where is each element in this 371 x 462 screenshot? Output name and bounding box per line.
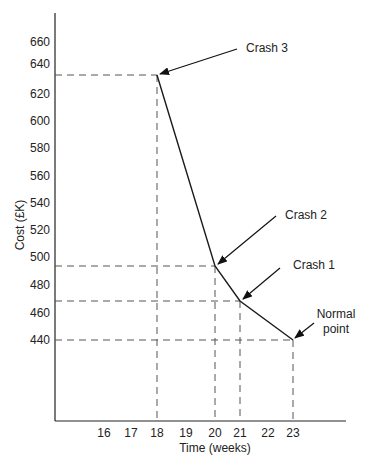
reference-dashes bbox=[55, 75, 293, 421]
arrow-normal-point bbox=[295, 323, 314, 338]
y-axis-label: Cost (£K) bbox=[13, 200, 27, 251]
y-tick: 600 bbox=[30, 114, 50, 128]
crash-cost-chart: 660 640 620 600 580 560 540 520 500 480 … bbox=[0, 0, 371, 462]
label-normal-point-line1: Normal bbox=[317, 307, 356, 321]
label-crash-1: Crash 1 bbox=[293, 258, 335, 272]
y-tick: 660 bbox=[30, 35, 50, 49]
y-tick-labels: 660 640 620 600 580 560 540 520 500 480 … bbox=[30, 35, 50, 347]
x-axis-label: Time (weeks) bbox=[179, 441, 251, 455]
x-tick: 19 bbox=[179, 426, 193, 440]
label-crash-2: Crash 2 bbox=[285, 208, 327, 222]
y-tick: 500 bbox=[30, 250, 50, 264]
y-tick: 440 bbox=[30, 333, 50, 347]
y-tick: 580 bbox=[30, 141, 50, 155]
x-tick: 17 bbox=[124, 426, 138, 440]
y-tick: 620 bbox=[30, 87, 50, 101]
crash-cost-curve bbox=[157, 75, 293, 340]
y-tick: 520 bbox=[30, 223, 50, 237]
x-tick: 16 bbox=[97, 426, 111, 440]
x-tick: 21 bbox=[233, 426, 247, 440]
y-tick: 540 bbox=[30, 196, 50, 210]
y-tick: 560 bbox=[30, 169, 50, 183]
arrow-crash-2 bbox=[218, 216, 276, 264]
label-crash-3: Crash 3 bbox=[246, 41, 288, 55]
x-tick: 18 bbox=[150, 426, 164, 440]
y-tick: 640 bbox=[30, 57, 50, 71]
x-tick: 22 bbox=[261, 426, 275, 440]
label-normal-point-line2: point bbox=[323, 322, 350, 336]
annotation-arrows bbox=[160, 49, 314, 338]
arrow-crash-1 bbox=[243, 268, 280, 299]
arrow-crash-3 bbox=[160, 49, 237, 74]
x-tick: 20 bbox=[208, 426, 222, 440]
y-tick: 460 bbox=[30, 306, 50, 320]
x-tick-labels: 16 17 18 19 20 21 22 23 bbox=[97, 426, 300, 440]
x-tick: 23 bbox=[286, 426, 300, 440]
y-tick: 480 bbox=[30, 278, 50, 292]
